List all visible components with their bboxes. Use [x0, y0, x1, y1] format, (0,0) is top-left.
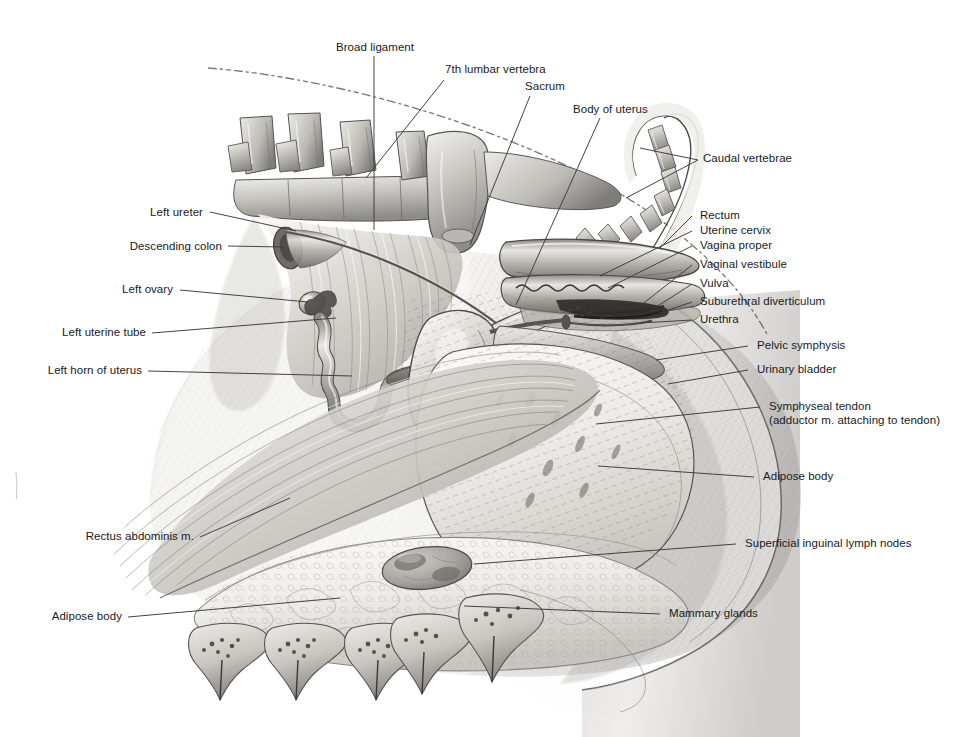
label-suburethral-diverticulum: Suburethral diverticulum: [700, 295, 825, 309]
label-urinary-bladder: Urinary bladder: [757, 363, 836, 377]
label-adipose-body-right: Adipose body: [763, 470, 833, 484]
anatomical-figure: Broad ligament 7th lumbar vertebra Sacru…: [0, 0, 970, 737]
label-adipose-body-left: Adipose body: [0, 610, 122, 624]
label-left-uterine-tube: Left uterine tube: [0, 326, 146, 340]
label-vulva: Vulva: [700, 277, 729, 291]
label-left-ureter: Left ureter: [0, 206, 203, 220]
label-descending-colon: Descending colon: [0, 240, 222, 254]
label-rectus-abdominis: Rectus abdominis m.: [0, 530, 194, 544]
label-left-horn-of-uterus: Left horn of uterus: [0, 364, 142, 378]
label-sacrum: Sacrum: [525, 80, 565, 94]
label-left-ovary: Left ovary: [0, 283, 173, 297]
label-uterine-cervix: Uterine cervix: [700, 224, 771, 238]
label-mammary-glands: Mammary glands: [669, 607, 758, 621]
label-symphyseal-tendon-note: (adductor m. attaching to tendon): [769, 414, 940, 428]
label-pelvic-symphysis: Pelvic symphysis: [757, 339, 845, 353]
label-rectum: Rectum: [700, 209, 740, 223]
label-body-of-uterus: Body of uterus: [573, 103, 648, 117]
sacrum: [426, 131, 621, 253]
label-vaginal-vestibule: Vaginal vestibule: [700, 258, 787, 272]
label-superficial-inguinal-lymph-nodes: Superficial inguinal lymph nodes: [745, 537, 912, 551]
label-broad-ligament: Broad ligament: [336, 41, 414, 55]
label-7th-lumbar-vertebra: 7th lumbar vertebra: [445, 63, 546, 77]
label-caudal-vertebrae: Caudal vertebrae: [703, 152, 792, 166]
label-symphyseal-tendon: Symphyseal tendon: [769, 400, 871, 414]
label-urethra: Urethra: [700, 313, 739, 327]
label-vagina-proper: Vagina proper: [700, 239, 772, 253]
